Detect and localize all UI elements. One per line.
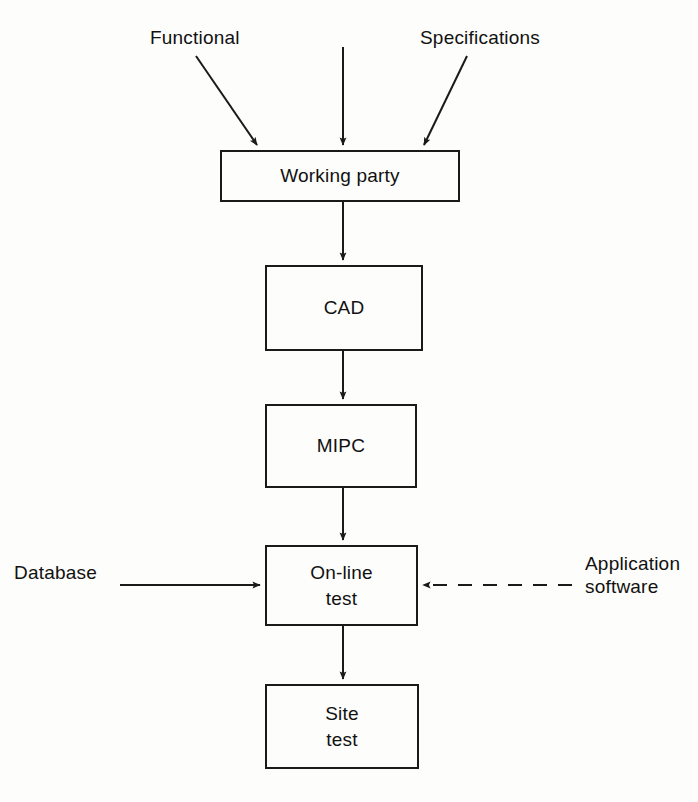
flowchart-diagram: Working party CAD MIPC On-line test Site… [0,0,698,802]
edge-label-specifications: Specifications [420,26,540,49]
edge-label-application-software: Application software [585,552,680,598]
node-site-test-label: Site test [325,701,359,752]
node-working-party[interactable]: Working party [220,150,460,202]
node-cad-label: CAD [324,295,365,321]
flowchart-connectors [0,0,698,802]
node-mipc[interactable]: MIPC [265,404,417,488]
connector-functional-to-working-party [196,56,257,145]
node-site-test[interactable]: Site test [265,684,419,769]
connector-specifications-to-working-party [424,56,467,145]
node-cad[interactable]: CAD [265,265,423,351]
edge-label-database: Database [14,561,97,584]
node-online-test-label: On-line test [310,560,373,611]
node-mipc-label: MIPC [317,433,365,459]
node-online-test[interactable]: On-line test [265,545,418,626]
edge-label-functional: Functional [150,26,240,49]
node-working-party-label: Working party [280,163,399,189]
